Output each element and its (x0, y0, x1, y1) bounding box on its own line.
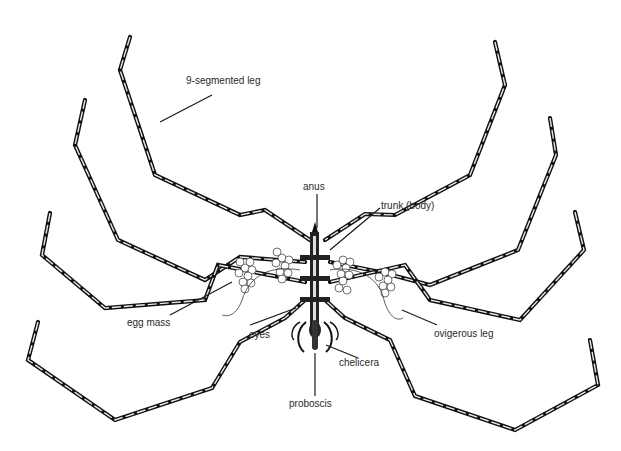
sea-spider-illustration (0, 0, 621, 451)
label-eyes: eyes (249, 329, 270, 341)
label-trunk-body: trunk (body) (381, 200, 434, 212)
label-ovigerous-leg: ovigerous leg (434, 328, 493, 340)
leader-trunk (330, 208, 380, 250)
label-proboscis: proboscis (289, 398, 332, 410)
label-egg-mass: egg mass (127, 317, 170, 329)
label-anus: anus (303, 181, 325, 193)
leader-egg-mass (170, 282, 232, 315)
leader-leg (160, 95, 212, 122)
label-chelicera: chelicera (339, 357, 379, 369)
sea-spider-diagram: 9-segmented leg anus trunk (body) egg ma… (0, 0, 621, 451)
label-9-segmented-leg: 9-segmented leg (186, 75, 261, 87)
leg-pair-1 (120, 37, 505, 240)
leader-ovigerous-leg (402, 310, 437, 325)
